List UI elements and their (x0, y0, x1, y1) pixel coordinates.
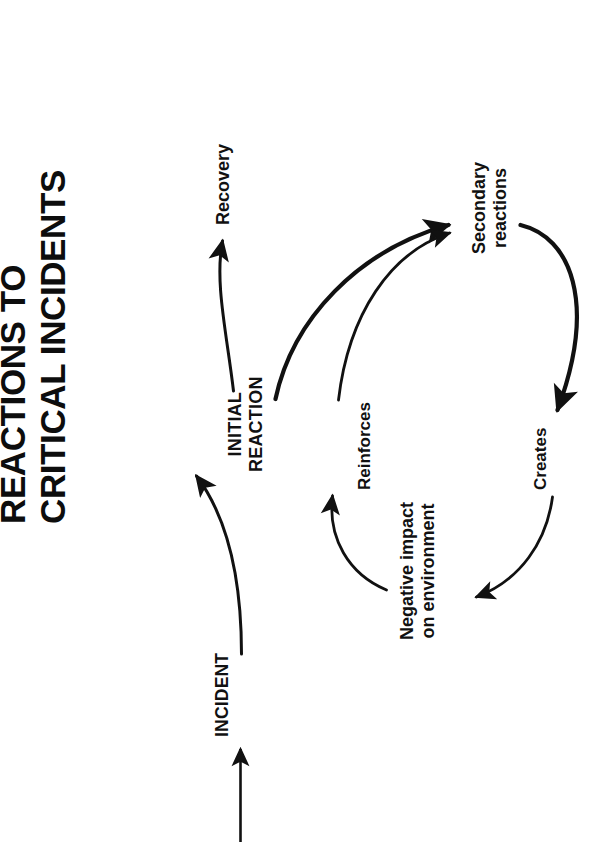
figure-title: REACTIONS TO CRITICAL INCIDENTS (0, 94, 72, 524)
node-label-secondary-reactions-line-1: Secondary (468, 162, 489, 254)
figure-title-line-2: CRITICAL INCIDENTS (32, 94, 72, 524)
node-label-recovery: Recovery (212, 144, 233, 225)
node-label-initial-reaction-line-2: REACTION (245, 376, 266, 472)
edge-initial-reaction-to-secondary (275, 225, 448, 399)
edge-creates-to-negative-impact (476, 497, 552, 597)
figure-page: REACTIONS TO CRITICAL INCIDENTS INCIDENT… (0, 0, 613, 842)
node-label-negative-impact-line-2: on environment (417, 502, 438, 640)
edge-incident-to-initial-reaction (196, 476, 241, 654)
diagram-canvas (0, 0, 613, 842)
node-label-negative-impact: Negative impact on environment (396, 502, 437, 640)
node-label-secondary-reactions-line-2: reactions (489, 162, 510, 254)
node-label-negative-impact-line-1: Negative impact (396, 502, 417, 640)
edge-negative-impact-to-reinforces (331, 496, 386, 590)
edge-label-creates: Creates (530, 428, 549, 490)
edge-secondary-to-creates (520, 225, 576, 410)
node-label-incident: INCIDENT (212, 653, 232, 737)
node-label-initial-reaction: INITIAL REACTION (224, 376, 265, 472)
edge-reinforces-to-secondary (338, 233, 449, 400)
node-label-secondary-reactions: Secondary reactions (468, 162, 509, 254)
edge-label-reinforces: Reinforces (354, 402, 373, 490)
figure-title-line-1: REACTIONS TO (0, 94, 32, 524)
edge-initial-reaction-to-recovery (219, 241, 233, 391)
diagram-stage: REACTIONS TO CRITICAL INCIDENTS INCIDENT… (0, 0, 613, 842)
node-label-initial-reaction-line-1: INITIAL (224, 376, 245, 472)
